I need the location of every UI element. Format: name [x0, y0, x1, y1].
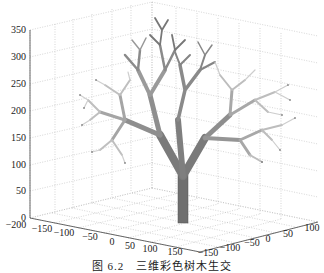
svg-text:150: 150 — [11, 132, 26, 143]
svg-text:50: 50 — [283, 228, 293, 239]
svg-text:100: 100 — [11, 159, 26, 170]
svg-text:−50: −50 — [244, 237, 260, 248]
svg-text:−50: −50 — [82, 231, 98, 242]
svg-text:150: 150 — [168, 246, 183, 257]
x-axis-ticks: −200 −150 −100 −50 0 50 100 150 — [6, 219, 183, 257]
grid-back-wall-left — [30, 2, 152, 218]
fractal-tree — [79, 18, 296, 223]
svg-text:200: 200 — [11, 105, 26, 116]
svg-text:250: 250 — [11, 78, 26, 89]
svg-text:350: 350 — [11, 24, 26, 35]
z-axis-ticks: 350 300 250 200 150 100 50 0 — [11, 24, 26, 223]
svg-text:0: 0 — [110, 236, 115, 247]
axes-lines — [30, 30, 318, 252]
figure-caption: 图 6.2 三维彩色树木生交 — [0, 257, 324, 273]
svg-text:−100: −100 — [220, 242, 241, 253]
svg-text:300: 300 — [11, 51, 26, 62]
grid-floor — [30, 188, 318, 252]
svg-text:−100: −100 — [54, 227, 75, 238]
svg-text:50: 50 — [16, 185, 26, 196]
svg-text:−150: −150 — [32, 223, 53, 234]
svg-text:−200: −200 — [6, 219, 27, 230]
svg-text:100: 100 — [305, 222, 320, 233]
svg-text:100: 100 — [143, 243, 158, 254]
svg-text:50: 50 — [125, 240, 135, 251]
y-axis-ticks: −150 −100 −50 0 50 100 — [198, 222, 320, 258]
svg-text:0: 0 — [266, 233, 271, 244]
